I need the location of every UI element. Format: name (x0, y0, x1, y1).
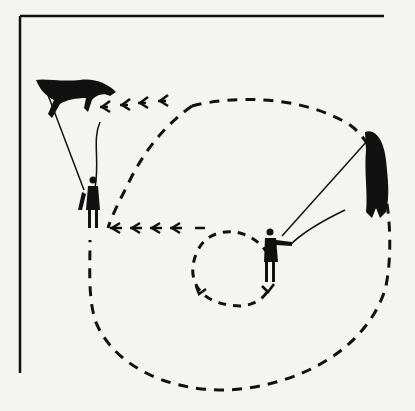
inner-arrow-right (262, 284, 274, 292)
inner-circle-path (193, 232, 268, 306)
arrow-middle (110, 223, 205, 233)
lunge-line-left (48, 95, 84, 190)
lunging-diagram (0, 0, 415, 411)
outer-circle-path (90, 99, 390, 390)
horse-right (365, 131, 388, 218)
lunge-line-right (282, 140, 368, 236)
arrow-top (100, 95, 168, 112)
handler-center (264, 229, 292, 283)
whip-right (290, 210, 345, 245)
inner-arrow-left (196, 286, 206, 294)
connector-path (108, 106, 192, 228)
horse-top-left (36, 79, 116, 118)
